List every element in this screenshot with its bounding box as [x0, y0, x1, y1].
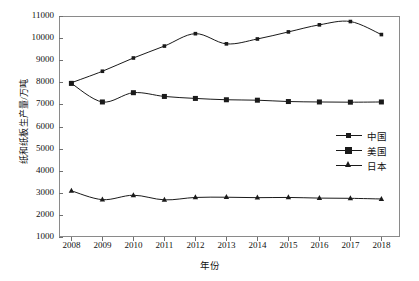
- x-axis-title: 年份: [0, 258, 419, 272]
- y-axis-tick-labels: 1000200030004000500060007000800090001000…: [0, 0, 54, 281]
- plot-series-layer: [59, 16, 400, 237]
- y-tick-label: 11000: [6, 11, 54, 20]
- y-tick-label: 8000: [6, 77, 54, 86]
- x-tick-mark: [288, 237, 289, 241]
- legend-marker-triangle-icon: [336, 160, 362, 171]
- x-tick-mark: [102, 237, 103, 241]
- data-point-marker: [131, 90, 136, 95]
- y-tick-mark: [59, 193, 63, 194]
- data-point-marker: [348, 100, 353, 105]
- data-point-marker: [194, 32, 198, 36]
- data-point-marker: [193, 194, 198, 199]
- y-tick-mark: [59, 149, 63, 150]
- legend-item-china[interactable]: 中国: [336, 128, 406, 143]
- legend-marker-square-small-icon: [336, 130, 362, 141]
- y-tick-mark: [59, 127, 63, 128]
- y-tick-mark: [59, 38, 63, 39]
- y-tick-mark: [59, 82, 63, 83]
- x-tick-mark: [164, 237, 165, 241]
- data-point-marker: [132, 56, 136, 60]
- series-line: [71, 21, 381, 83]
- x-axis-tick-labels: 2008200920102011201220132014201520162017…: [0, 240, 419, 254]
- y-tick-label: 2000: [6, 210, 54, 219]
- data-point-marker: [100, 99, 105, 104]
- data-point-marker: [69, 81, 74, 86]
- legend-item-usa[interactable]: 美国: [336, 143, 406, 158]
- data-point-marker: [287, 30, 291, 34]
- data-point-marker: [255, 98, 260, 103]
- y-tick-mark: [59, 237, 63, 238]
- line-chart: 纸和纸板生产量/万吨 10002000300040005000600070008…: [0, 0, 419, 281]
- y-tick-label: 5000: [6, 144, 54, 153]
- data-point-marker: [379, 196, 384, 201]
- data-point-marker: [317, 99, 322, 104]
- legend-marker-square-large-icon: [336, 145, 362, 156]
- data-point-marker: [318, 23, 322, 27]
- data-point-marker: [317, 195, 322, 200]
- y-tick-label: 9000: [6, 55, 54, 64]
- x-tick-mark: [195, 237, 196, 241]
- data-point-marker: [131, 192, 136, 197]
- data-point-marker: [69, 188, 74, 193]
- y-tick-label: 3000: [6, 188, 54, 197]
- y-tick-mark: [59, 60, 63, 61]
- data-point-marker: [255, 195, 260, 200]
- x-tick-mark: [319, 237, 320, 241]
- data-point-marker: [101, 69, 105, 73]
- y-tick-mark: [59, 215, 63, 216]
- data-point-marker: [225, 42, 229, 46]
- data-point-marker: [163, 44, 167, 48]
- series-1: [70, 20, 384, 85]
- y-tick-label: 10000: [6, 33, 54, 42]
- data-point-marker: [224, 194, 229, 199]
- data-point-marker: [380, 33, 384, 37]
- y-tick-mark: [59, 104, 63, 105]
- data-point-marker: [224, 97, 229, 102]
- legend-label: 中国: [362, 129, 387, 143]
- x-tick-label: 2018: [361, 240, 401, 250]
- y-tick-label: 4000: [6, 166, 54, 175]
- data-point-marker: [286, 194, 291, 199]
- legend-label: 美国: [362, 144, 387, 158]
- x-tick-mark: [71, 237, 72, 241]
- data-point-marker: [286, 99, 291, 104]
- legend-label: 日本: [362, 159, 387, 173]
- y-tick-label: 6000: [6, 122, 54, 131]
- series-2: [69, 81, 384, 105]
- data-point-marker: [349, 20, 353, 24]
- data-point-marker: [193, 96, 198, 101]
- x-tick-mark: [350, 237, 351, 241]
- legend-item-japan[interactable]: 日本: [336, 158, 406, 173]
- y-tick-mark: [59, 171, 63, 172]
- data-point-marker: [379, 99, 384, 104]
- x-tick-mark: [257, 237, 258, 241]
- data-point-marker: [162, 94, 167, 99]
- y-tick-label: 7000: [6, 99, 54, 108]
- data-point-marker: [256, 37, 260, 41]
- series-3: [69, 188, 384, 202]
- chart-legend: 中国 美国 日本: [336, 128, 406, 173]
- data-point-marker: [348, 195, 353, 200]
- x-tick-mark: [226, 237, 227, 241]
- x-tick-mark: [381, 237, 382, 241]
- y-tick-mark: [59, 16, 63, 17]
- x-tick-mark: [133, 237, 134, 241]
